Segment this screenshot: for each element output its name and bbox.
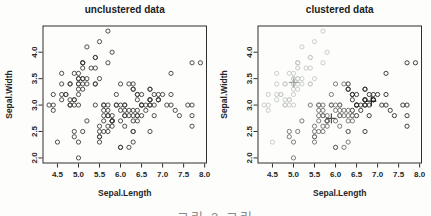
data-point [275, 98, 279, 102]
data-point [291, 92, 295, 96]
data-point [321, 114, 325, 118]
data-point [135, 119, 139, 123]
data-point [131, 119, 135, 123]
data-point [76, 87, 80, 91]
data-point [354, 92, 358, 96]
data-point [346, 82, 350, 86]
data-point [405, 61, 409, 65]
y-tick-label: 3.0 [30, 99, 39, 111]
data-point [388, 108, 392, 112]
data-point [51, 108, 55, 112]
data-point [135, 114, 139, 118]
y-tick-label: 2.5 [30, 125, 39, 137]
y-tick-label: 3.5 [30, 73, 39, 85]
data-point [135, 108, 139, 112]
data-point [342, 82, 346, 86]
data-point [308, 82, 312, 86]
data-point [93, 66, 97, 70]
data-point [275, 82, 279, 86]
x-tick-label: 7.5 [178, 170, 190, 179]
y-tick-label: 3.0 [245, 99, 254, 111]
data-point [144, 108, 148, 112]
data-point [325, 124, 329, 128]
data-point [102, 129, 106, 133]
data-point [127, 108, 131, 112]
data-point [190, 61, 194, 65]
data-point [338, 108, 342, 112]
data-point [296, 129, 300, 133]
data-point [363, 129, 367, 133]
data-point [139, 92, 143, 96]
data-point [139, 114, 143, 118]
data-point [367, 114, 371, 118]
data-point [266, 103, 270, 107]
data-point [317, 119, 321, 123]
data-point [296, 77, 300, 81]
data-point [110, 114, 114, 118]
data-point [317, 103, 321, 107]
x-tick-label: 7.0 [157, 170, 169, 179]
data-point [68, 98, 72, 102]
data-point [321, 103, 325, 107]
scatter-plot-unclustered: unclustered data Sepal.Length Sepal.Widt… [0, 0, 216, 216]
data-point [60, 71, 64, 75]
data-point [81, 77, 85, 81]
data-point [367, 92, 371, 96]
data-point [308, 103, 312, 107]
data-point [123, 114, 127, 118]
data-point [97, 135, 101, 139]
data-point [131, 108, 135, 112]
data-point [359, 103, 363, 107]
data-point [325, 119, 329, 123]
data-point [64, 92, 68, 96]
data-point [312, 129, 316, 133]
x-axis-label: Sepal.Length [313, 188, 366, 198]
x-tick-label: 8.0 [414, 170, 426, 179]
data-point [329, 92, 333, 96]
data-point [333, 82, 337, 86]
data-point [333, 145, 337, 149]
data-point [342, 114, 346, 118]
data-point [106, 29, 110, 33]
data-point [131, 87, 135, 91]
data-point [346, 108, 350, 112]
x-tick-label: 7.0 [372, 170, 384, 179]
data-point [350, 108, 354, 112]
data-point [266, 92, 270, 96]
data-point [338, 114, 342, 118]
data-point [81, 82, 85, 86]
x-axis-label: Sepal.Length [98, 188, 151, 198]
y-tick-label: 2.5 [245, 125, 254, 137]
data-point [392, 114, 396, 118]
data-point [165, 103, 169, 107]
data-point [291, 156, 295, 160]
data-point [279, 92, 283, 96]
data-point [342, 108, 346, 112]
data-point [97, 129, 101, 133]
data-point [350, 92, 354, 96]
data-point [102, 119, 106, 123]
data-point [76, 92, 80, 96]
data-point [363, 103, 367, 107]
data-point [93, 82, 97, 86]
data-point [325, 50, 329, 54]
plot-title-unclustered: unclustered data [85, 4, 165, 15]
data-point [321, 61, 325, 65]
data-point [76, 77, 80, 81]
data-point [148, 87, 152, 91]
data-point [350, 119, 354, 123]
x-tick-label: 5.0 [73, 170, 85, 179]
x-tick-label: 4.5 [267, 170, 279, 179]
data-point [325, 114, 329, 118]
data-point [76, 71, 80, 75]
data-point [93, 55, 97, 59]
data-point [346, 87, 350, 91]
data-point [114, 103, 118, 107]
data-point [367, 103, 371, 107]
data-point [169, 71, 173, 75]
data-point [139, 103, 143, 107]
data-point [97, 77, 101, 81]
data-point [72, 135, 76, 139]
data-point [123, 103, 127, 107]
data-point [317, 114, 321, 118]
